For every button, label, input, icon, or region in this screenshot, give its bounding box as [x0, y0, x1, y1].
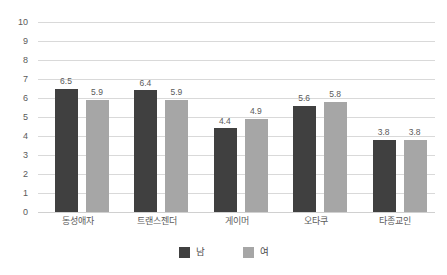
- bar-group: 3.83.8: [356, 22, 435, 212]
- female-swatch-icon: [243, 247, 254, 258]
- category-axis: 동성애자트랜스젠더게이머오타쿠타종교인: [38, 216, 435, 236]
- bar-value-label: 5.6: [287, 94, 321, 103]
- y-axis-tick-label: 5: [23, 113, 28, 122]
- bar-chart: 6.55.96.45.94.44.95.65.83.83.8 109876543…: [0, 0, 447, 275]
- bar-female[interactable]: [165, 100, 188, 212]
- bar-group: 5.65.8: [276, 22, 355, 212]
- bar-value-label: 5.9: [80, 88, 114, 97]
- bar-value-label: 5.9: [159, 88, 193, 97]
- bar-value-label: 3.8: [398, 128, 432, 137]
- category-label: 타종교인: [350, 216, 440, 227]
- bar-group: 4.44.9: [197, 22, 276, 212]
- category-label: 게이머: [192, 216, 282, 227]
- legend-item-male[interactable]: 남: [179, 247, 205, 258]
- bar-value-label: 3.8: [367, 128, 401, 137]
- plot-area: 6.55.96.45.94.44.95.65.83.83.8: [38, 22, 435, 212]
- bar-female[interactable]: [86, 100, 109, 212]
- bar-male[interactable]: [214, 128, 237, 212]
- bar-value-label: 4.9: [239, 107, 273, 116]
- y-axis-tick-label: 8: [23, 56, 28, 65]
- legend-label-female: 여: [260, 247, 269, 257]
- bar-male[interactable]: [55, 89, 78, 213]
- bar-group: 6.45.9: [117, 22, 196, 212]
- male-swatch-icon: [179, 247, 190, 258]
- category-label: 동성애자: [33, 216, 123, 227]
- category-label: 오타쿠: [271, 216, 361, 227]
- y-axis-tick-label: 3: [23, 151, 28, 160]
- y-axis-tick-label: 10: [18, 18, 28, 27]
- bar-male[interactable]: [373, 140, 396, 212]
- bar-male[interactable]: [293, 106, 316, 212]
- legend-label-male: 남: [196, 247, 205, 257]
- bar-female[interactable]: [245, 119, 268, 212]
- y-axis-tick-label: 9: [23, 37, 28, 46]
- bar-female[interactable]: [324, 102, 347, 212]
- bar-value-label: 6.5: [49, 77, 83, 86]
- bar-value-label: 5.8: [318, 90, 352, 99]
- bar-value-label: 6.4: [128, 79, 162, 88]
- gridline: [38, 212, 435, 213]
- bar-value-label: 4.4: [208, 117, 242, 126]
- y-axis-tick-label: 6: [23, 94, 28, 103]
- legend-item-female[interactable]: 여: [243, 247, 269, 258]
- bar-group: 6.55.9: [38, 22, 117, 212]
- y-axis-tick-label: 4: [23, 132, 28, 141]
- chart-legend: 남 여: [0, 243, 447, 261]
- bar-male[interactable]: [134, 90, 157, 212]
- bar-female[interactable]: [404, 140, 427, 212]
- y-axis-tick-label: 0: [23, 208, 28, 217]
- y-axis-tick-label: 1: [23, 189, 28, 198]
- category-label: 트랜스젠더: [112, 216, 202, 227]
- y-axis-tick-label: 2: [23, 170, 28, 179]
- y-axis-tick-label: 7: [23, 75, 28, 84]
- y-axis: 109876543210: [0, 22, 32, 212]
